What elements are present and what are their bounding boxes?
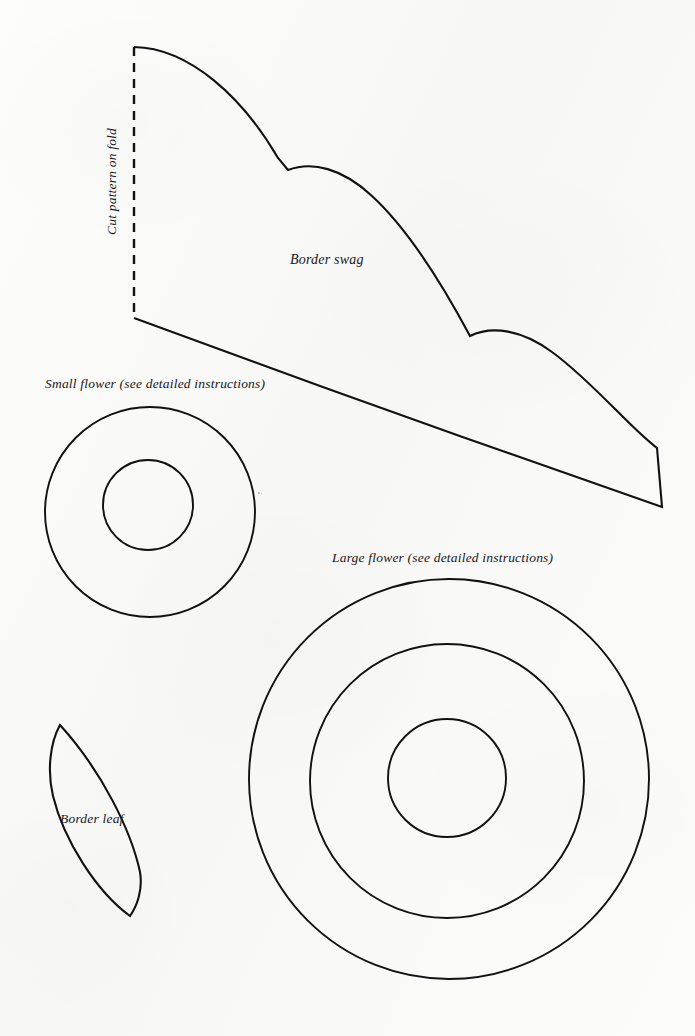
label-small-flower: Small flower (see detailed instructions)	[45, 376, 265, 392]
large-flower-shape	[249, 579, 649, 979]
ink-speck	[261, 493, 262, 494]
large-flower-outer-circle	[249, 579, 649, 979]
label-border-leaf: Border leaf	[60, 811, 124, 827]
border-swag-shape	[134, 47, 662, 507]
label-large-flower: Large flower (see detailed instructions)	[332, 550, 553, 566]
pattern-sheet: Cut pattern on fold Border swag Small fl…	[0, 0, 695, 1036]
small-flower-outer-circle	[45, 407, 255, 617]
border-swag-outline	[134, 47, 662, 507]
large-flower-middle-circle	[310, 644, 584, 918]
label-border-swag: Border swag	[290, 252, 364, 268]
large-flower-center-circle	[388, 719, 506, 837]
small-flower-shape	[45, 407, 255, 617]
label-cut-pattern-on-fold: Cut pattern on fold	[104, 128, 120, 235]
ink-speck	[258, 492, 260, 494]
small-flower-center-circle	[103, 460, 193, 550]
